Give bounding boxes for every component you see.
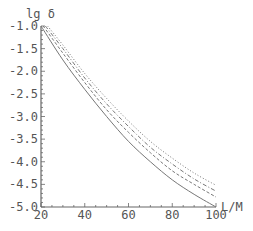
x-axis-label: L/M — [221, 200, 243, 214]
x-tick-label: 20 — [34, 208, 48, 222]
y-tick-label: -1.5 — [9, 42, 38, 56]
y-tick-label: -2.0 — [9, 64, 38, 78]
series-line-solid — [41, 26, 216, 207]
chart: -1.0-1.5-2.0-2.5-3.0-3.5-4.0-4.5-5.02040… — [0, 0, 253, 231]
y-tick-label: -3.0 — [9, 110, 38, 124]
y-tick-label: -3.5 — [9, 132, 38, 146]
series-line-dotted — [48, 26, 216, 185]
x-tick-label: 80 — [165, 208, 179, 222]
series-line-dashed — [43, 26, 216, 197]
y-tick-label: -4.0 — [9, 155, 38, 169]
x-tick-label: 40 — [78, 208, 92, 222]
series-group — [41, 26, 216, 207]
y-tick-label: -1.0 — [9, 19, 38, 33]
y-axis-label: lg δ — [26, 7, 55, 21]
x-tick-label: 60 — [121, 208, 135, 222]
series-line-dash-dot — [45, 26, 216, 191]
axes: -1.0-1.5-2.0-2.5-3.0-3.5-4.0-4.5-5.02040… — [9, 19, 227, 222]
y-tick-label: -2.5 — [9, 87, 38, 101]
y-tick-label: -4.5 — [9, 177, 38, 191]
